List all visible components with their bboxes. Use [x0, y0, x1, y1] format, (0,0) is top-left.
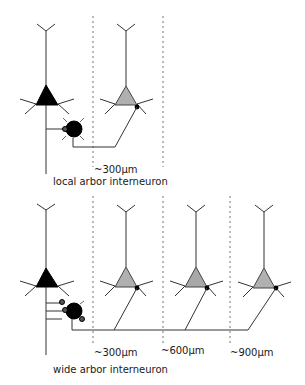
top-panel — [20, 16, 163, 174]
source-pyramidal-neuron — [20, 204, 74, 355]
distance-label-300: ~300µm — [94, 347, 138, 358]
local-interneuron — [46, 107, 137, 147]
distance-label-900: ~900µm — [230, 347, 274, 358]
caption-wide: wide arbor interneuron — [53, 364, 168, 375]
target-pyramidal-neuron-2 — [170, 205, 223, 330]
source-pyramidal-neuron — [20, 24, 74, 174]
caption-local: local arbor interneuron — [53, 176, 168, 187]
wide-interneuron — [46, 300, 248, 331]
target-pyramidal-neuron-3 — [238, 205, 291, 330]
target-pyramidal-neuron — [100, 24, 153, 114]
neuron-diagram — [0, 0, 305, 385]
distance-label-600: ~600µm — [161, 345, 205, 356]
bottom-panel — [20, 196, 291, 355]
target-pyramidal-neuron-1 — [100, 205, 153, 330]
distance-label: ~300µm — [94, 164, 138, 175]
